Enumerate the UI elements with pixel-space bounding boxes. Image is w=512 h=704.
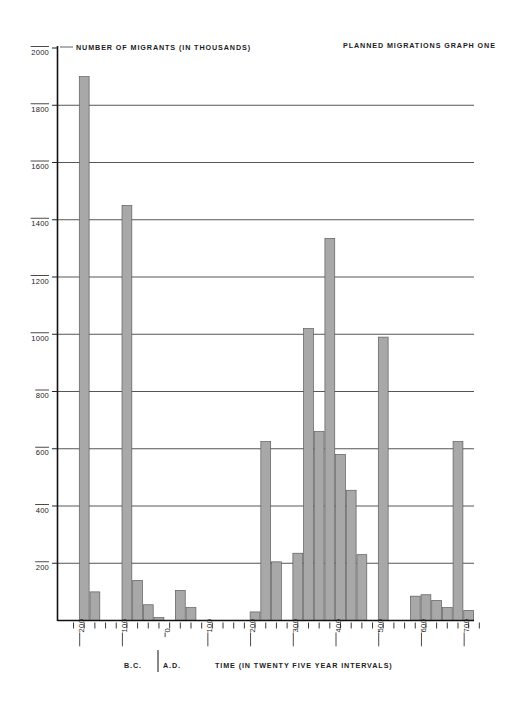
bar — [442, 608, 452, 621]
bar — [90, 592, 100, 621]
y-tick-label: 400 — [36, 506, 49, 515]
x-tick-label: 100 — [120, 619, 129, 633]
bar — [122, 205, 132, 620]
bar — [272, 562, 282, 621]
bar — [261, 442, 271, 621]
y-tick-label: 1000 — [31, 334, 49, 343]
bar — [79, 77, 89, 621]
bar — [133, 580, 143, 620]
y-tick-label: 1600 — [31, 162, 49, 171]
y-tick-label: 600 — [36, 448, 49, 457]
era-label-ad: A.D. — [163, 661, 181, 670]
bar — [410, 596, 420, 620]
x-tick-label: 400 — [334, 619, 343, 633]
y-tick-label: 1800 — [31, 105, 49, 114]
era-label-bc: B.C. — [124, 661, 142, 670]
y-tick-label: 1200 — [31, 277, 49, 286]
y-tick-label: 800 — [36, 391, 49, 400]
chart-title: PLANNED MIGRATIONS GRAPH ONE — [343, 41, 496, 50]
chart-canvas: 200018001600140012001000800600400200 200… — [0, 0, 512, 704]
bar — [143, 605, 153, 621]
bar — [346, 490, 356, 620]
bar — [293, 553, 303, 620]
planned-migrations-chart: 200018001600140012001000800600400200 200… — [0, 0, 512, 704]
bar — [453, 442, 463, 621]
bar — [421, 595, 431, 621]
x-tick-label: 500 — [376, 619, 385, 633]
bar — [378, 337, 388, 620]
bar — [186, 608, 196, 621]
bar — [325, 238, 335, 620]
x-tick-label: 600 — [419, 619, 428, 633]
x-tick-label: 100 — [205, 619, 214, 633]
bar — [304, 329, 314, 621]
bar — [175, 590, 185, 620]
x-tick-label: 300 — [291, 619, 300, 633]
bar — [336, 454, 346, 620]
bar — [357, 555, 367, 621]
x-tick-label: 0 — [163, 628, 172, 633]
bar — [432, 600, 442, 620]
x-tick-label: 700 — [462, 619, 471, 633]
bar — [314, 432, 324, 621]
y-tick-label: 2000 — [31, 48, 49, 57]
x-axis-title: TIME (IN TWENTY FIVE YEAR INTERVALS) — [215, 661, 393, 670]
y-axis-title: NUMBER OF MIGRANTS (IN THOUSANDS) — [76, 43, 251, 52]
x-tick-label: 200 — [77, 619, 86, 633]
y-tick-label: 200 — [36, 563, 49, 572]
y-tick-label: 1400 — [31, 219, 49, 228]
x-tick-label: 200 — [248, 619, 257, 633]
